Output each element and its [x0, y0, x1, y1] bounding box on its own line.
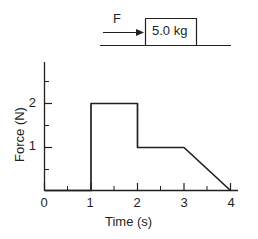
y-tick-label-2: 2: [22, 96, 36, 109]
x-tick-label-0: 0: [37, 196, 51, 209]
x-tick-label-3: 3: [177, 196, 191, 209]
figure-canvas: F 5.0 kg Force (N) Time (s) 2 1 0 1 2 3 …: [0, 0, 258, 239]
y-tick-label-1: 1: [22, 139, 36, 152]
y-axis-label: Force (N): [13, 104, 26, 166]
force-time-curve: [45, 104, 231, 191]
force-label: F: [113, 12, 121, 25]
x-tick-label-2: 2: [130, 196, 144, 209]
x-tick-label-4: 4: [224, 196, 238, 209]
x-tick-label-1: 1: [83, 196, 97, 209]
x-axis-label: Time (s): [105, 215, 152, 228]
force-arrow-head: [136, 29, 144, 36]
block-mass-label: 5.0 kg: [152, 24, 187, 37]
